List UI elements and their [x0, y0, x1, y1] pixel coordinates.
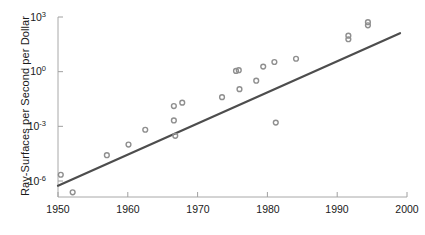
data-point: [58, 172, 63, 177]
data-point: [366, 20, 371, 25]
chart-figure: Ray-Surfaces per Second per Dollar 103 1…: [0, 0, 425, 235]
data-point: [294, 56, 299, 61]
trend-line-segment: [58, 33, 400, 186]
data-point: [70, 190, 75, 195]
data-point: [171, 104, 176, 109]
plot-canvas: [0, 0, 425, 235]
data-point: [180, 100, 185, 105]
data-point: [261, 64, 266, 69]
data-point: [220, 95, 225, 100]
data-point: [171, 118, 176, 123]
data-point: [272, 60, 277, 65]
data-point: [126, 142, 131, 147]
data-point: [273, 120, 278, 125]
data-point: [143, 127, 148, 132]
data-point: [237, 87, 242, 92]
trend-line: [58, 33, 400, 186]
y-axis-ticks: [58, 17, 63, 181]
data-point: [254, 78, 259, 83]
data-points: [58, 20, 370, 195]
x-axis-ticks: [58, 192, 407, 197]
data-point: [104, 153, 109, 158]
